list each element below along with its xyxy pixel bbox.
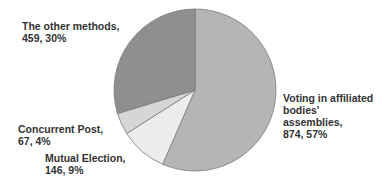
label-concurrent-post: Concurrent Post, 67, 4% — [18, 123, 103, 147]
label-other-methods: The other methods, 459, 30% — [22, 20, 119, 44]
label-mutual-election: Mutual Election, 146, 9% — [45, 152, 126, 176]
label-voting: Voting in affiliated bodies' assemblies,… — [283, 92, 373, 140]
